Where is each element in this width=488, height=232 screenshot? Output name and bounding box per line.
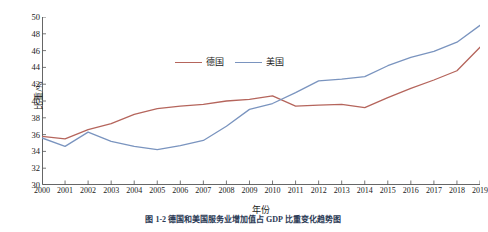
x-axis-tick-label: 2013: [334, 187, 350, 195]
axis-spines: [43, 17, 481, 185]
x-axis-tick-label: 2011: [288, 187, 304, 195]
plot-area: 比重/% 3032343638404244464850 200020012002…: [42, 17, 480, 185]
y-axis-tick-label: 38: [32, 114, 41, 123]
y-axis-tick-label: 48: [32, 30, 41, 39]
y-axis-tick-label: 44: [32, 63, 41, 72]
x-axis-tick-label: 2005: [149, 187, 165, 195]
chart-legend: 德国美国: [175, 58, 284, 67]
figure-caption: 图 1-2 德国和美国服务业增加值占 GDP 比重变化趋势图: [0, 213, 486, 224]
y-axis-tick-label: 36: [32, 130, 41, 139]
x-axis-tick-label: 2010: [265, 187, 281, 195]
legend-entry: 美国: [235, 58, 284, 67]
x-axis-tick-label: 2006: [172, 187, 188, 195]
x-axis-tick-label: 2004: [126, 187, 142, 195]
y-axis-tick-label: 42: [32, 80, 41, 89]
y-axis-tick-labels: 3032343638404244464850: [18, 17, 40, 185]
y-axis-tick-label: 40: [32, 97, 41, 106]
x-axis-tick-label: 2018: [449, 187, 465, 195]
x-axis-tick-label: 2014: [357, 187, 373, 195]
y-axis-tick-label: 34: [32, 147, 41, 156]
legend-entry: 德国: [175, 58, 224, 67]
x-axis-tick-label: 2002: [80, 187, 96, 195]
legend-color-swatch: [235, 62, 262, 63]
x-axis-tick-label: 2015: [380, 187, 396, 195]
x-axis-tick-labels: 2000200120022003200420052006200720082009…: [42, 187, 480, 201]
y-axis-tick-label: 50: [32, 13, 41, 22]
line-chart-svg: [42, 17, 480, 185]
legend-color-swatch: [175, 62, 202, 63]
x-axis-tick-label: 2009: [241, 187, 257, 195]
x-axis-tick-label: 2019: [472, 187, 488, 195]
legend-label: 美国: [266, 58, 284, 67]
x-axis-tick-label: 2008: [218, 187, 234, 195]
x-axis-tick-label: 2003: [103, 187, 119, 195]
x-axis-tick-label: 2017: [426, 187, 442, 195]
x-axis-tick-label: 2007: [195, 187, 211, 195]
y-axis-tick-label: 46: [32, 46, 41, 55]
x-axis-tick-label: 2012: [311, 187, 327, 195]
x-axis-tick-label: 2000: [34, 187, 50, 195]
y-axis-tick-label: 32: [32, 164, 41, 173]
x-axis-tick-label: 2001: [57, 187, 73, 195]
legend-label: 德国: [206, 58, 224, 67]
x-axis-tick-label: 2016: [403, 187, 419, 195]
